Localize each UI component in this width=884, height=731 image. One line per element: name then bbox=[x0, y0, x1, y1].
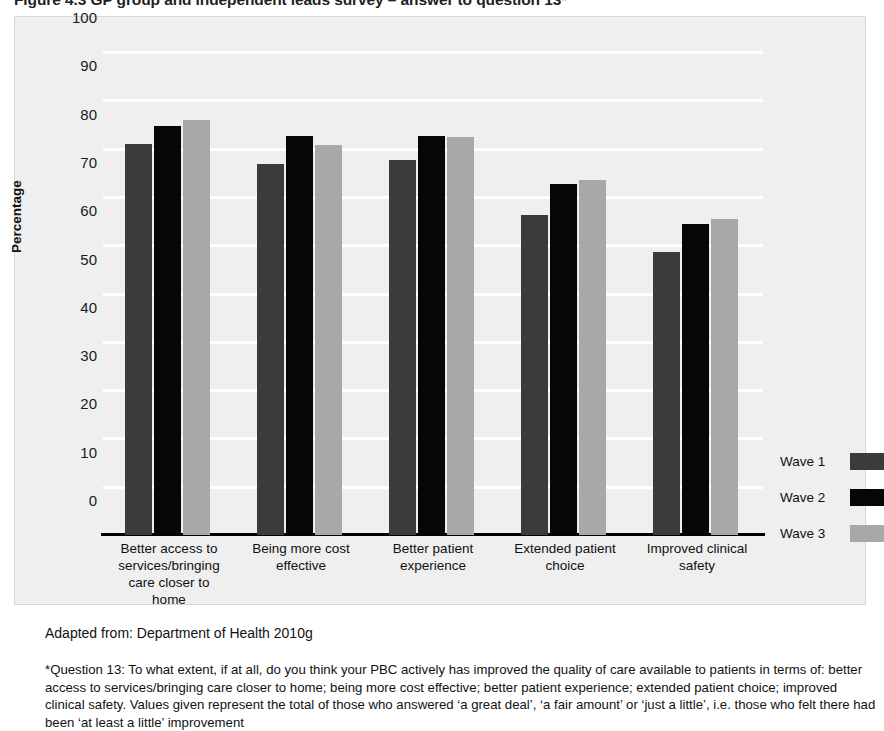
x-axis-category-1: Better access toservices/bringingcare cl… bbox=[102, 540, 236, 608]
bar-wave-1 bbox=[257, 164, 284, 535]
x-label-line: care closer to bbox=[128, 575, 209, 590]
x-label-line: safety bbox=[679, 558, 715, 573]
bar-wave-3 bbox=[579, 180, 606, 535]
bar-wave-3 bbox=[447, 137, 474, 535]
bar-wave-2 bbox=[154, 126, 181, 535]
y-axis-title: Percentage bbox=[9, 180, 24, 253]
bar-group bbox=[103, 52, 235, 535]
x-label-line: choice bbox=[545, 558, 584, 573]
bar-wave-1 bbox=[389, 160, 416, 535]
legend-item-wave-1[interactable]: Wave 1 bbox=[780, 451, 884, 471]
x-label-line: effective bbox=[276, 558, 326, 573]
legend-swatch-icon bbox=[850, 453, 884, 470]
bar-wave-1 bbox=[125, 144, 152, 535]
bar-group bbox=[631, 52, 763, 535]
x-axis-category-labels: Better access toservices/bringingcare cl… bbox=[103, 540, 763, 614]
legend-label: Wave 1 bbox=[780, 454, 825, 469]
x-label-line: Improved clinical bbox=[647, 541, 748, 556]
bar-group bbox=[235, 52, 367, 535]
bar-wave-2 bbox=[682, 224, 709, 535]
legend-swatch-icon bbox=[850, 489, 884, 506]
x-axis-category-3: Better patientexperience bbox=[366, 540, 500, 574]
y-axis-tick-10: 10 bbox=[53, 443, 97, 460]
y-axis-tick-70: 70 bbox=[53, 153, 97, 170]
y-axis-tick-90: 90 bbox=[53, 57, 97, 74]
y-axis-tick-20: 20 bbox=[53, 395, 97, 412]
bar-groups bbox=[103, 52, 763, 535]
legend-item-wave-2[interactable]: Wave 2 bbox=[780, 487, 884, 507]
figure-caption: Figure 4.3 GP group and independent lead… bbox=[14, 0, 874, 13]
bar-wave-3 bbox=[183, 120, 210, 535]
bar-group bbox=[499, 52, 631, 535]
y-axis-tick-labels: 1009080706050403020100 bbox=[45, 17, 97, 604]
y-axis-tick-30: 30 bbox=[53, 347, 97, 364]
y-axis-tick-40: 40 bbox=[53, 298, 97, 315]
x-label-line: home bbox=[152, 592, 186, 607]
x-axis-category-5: Improved clinicalsafety bbox=[630, 540, 764, 574]
chart-legend: Wave 1Wave 2Wave 3 bbox=[780, 451, 884, 543]
bar-group bbox=[367, 52, 499, 535]
legend-label: Wave 3 bbox=[780, 526, 825, 541]
x-label-line: Better patient bbox=[393, 541, 473, 556]
y-axis-tick-50: 50 bbox=[53, 250, 97, 267]
legend-label: Wave 2 bbox=[780, 490, 825, 505]
bar-wave-3 bbox=[711, 219, 738, 535]
x-label-line: Better access to bbox=[121, 541, 218, 556]
bar-wave-2 bbox=[418, 136, 445, 535]
x-label-line: services/bringing bbox=[118, 558, 219, 573]
y-axis-tick-80: 80 bbox=[53, 105, 97, 122]
x-axis-category-4: Extended patientchoice bbox=[498, 540, 632, 574]
bar-wave-2 bbox=[550, 184, 577, 535]
y-axis-tick-100: 100 bbox=[53, 9, 97, 26]
source-note: Adapted from: Department of Health 2010g bbox=[45, 625, 313, 641]
bar-wave-2 bbox=[286, 136, 313, 535]
bar-wave-1 bbox=[521, 215, 548, 535]
x-label-line: experience bbox=[400, 558, 466, 573]
y-axis-tick-0: 0 bbox=[53, 492, 97, 509]
x-label-line: Extended patient bbox=[514, 541, 615, 556]
y-axis-tick-60: 60 bbox=[53, 202, 97, 219]
x-label-line: Being more cost bbox=[252, 541, 350, 556]
question-footnote: *Question 13: To what extent, if at all,… bbox=[45, 661, 880, 731]
legend-swatch-icon bbox=[850, 525, 884, 542]
bar-wave-3 bbox=[315, 145, 342, 535]
chart-frame: 1009080706050403020100 Percentage Better… bbox=[14, 16, 866, 605]
bar-wave-1 bbox=[653, 252, 680, 535]
x-axis-category-2: Being more costeffective bbox=[234, 540, 368, 574]
legend-item-wave-3[interactable]: Wave 3 bbox=[780, 523, 884, 543]
